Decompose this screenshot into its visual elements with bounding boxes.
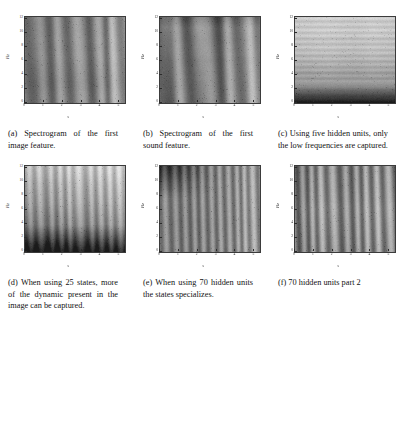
y-tick-label: 6 [156, 58, 158, 62]
x-tick-labels-b: 012345 [159, 104, 259, 112]
y-tick-labels-d: 024681012 [12, 165, 23, 251]
x-tick-label: 3 [215, 253, 217, 257]
x-tick-label: 1 [42, 104, 44, 108]
y-tick-label: 8 [291, 193, 293, 197]
y-tick-labels-b: 024681012 [147, 16, 158, 102]
y-tick-label: 6 [21, 207, 23, 211]
y-tick-label: 10 [154, 30, 158, 34]
x-tick-label: 2 [331, 104, 333, 108]
y-tick-label: 4 [21, 72, 23, 76]
x-tick-label: 4 [234, 104, 236, 108]
x-tick-label: 2 [331, 253, 333, 257]
x-tick-label: 2 [61, 253, 63, 257]
x-tick-label: 5 [252, 104, 254, 108]
y-tick-label: 6 [291, 58, 293, 62]
x-axis-label: s [8, 263, 128, 268]
spectrogram-plot-e: Hz 024681012 012345 s [143, 163, 263, 267]
x-tick-label: 1 [312, 104, 314, 108]
y-tick-label: 4 [156, 72, 158, 76]
y-tick-label: 2 [21, 235, 23, 239]
x-tick-label: 3 [80, 253, 82, 257]
spectrogram-plot-b: Hz 024681012 012345 s [143, 14, 263, 118]
y-tick-label: 12 [19, 16, 23, 20]
subfigure-caption-e: (e) When using 70 hidden units the state… [143, 277, 253, 300]
subfigure-caption-c: (c) Using five hidden units, only the lo… [278, 128, 388, 151]
x-tick-label: 2 [61, 104, 63, 108]
spectrogram-plot-f: Hz 024681012 012345 s [278, 163, 398, 267]
x-tick-label: 3 [350, 104, 352, 108]
y-tick-label: 4 [291, 221, 293, 225]
spectrogram-image-a [24, 16, 126, 104]
y-tick-label: 8 [156, 193, 158, 197]
subfigure-d: Hz 024681012 012345 s (d) When using 25 … [8, 163, 128, 312]
y-axis-label: Hz [5, 203, 10, 208]
subfigure-c: Hz 024681012 012345 s (c) Using five hid… [278, 14, 398, 151]
y-tick-label: 12 [289, 16, 293, 20]
y-tick-label: 12 [154, 165, 158, 169]
y-tick-labels-f: 024681012 [282, 165, 293, 251]
y-axis-label: Hz [140, 54, 145, 59]
x-tick-label: 2 [196, 253, 198, 257]
figure-row-top: Hz 024681012 012345 s (a) Spectrogram of… [0, 0, 404, 151]
y-tick-label: 6 [21, 58, 23, 62]
spectrogram-image-e [159, 165, 261, 253]
y-tick-label: 10 [19, 30, 23, 34]
y-axis-label: Hz [5, 54, 10, 59]
x-tick-labels-d: 012345 [24, 253, 124, 261]
y-tick-label: 10 [289, 179, 293, 183]
x-axis-label: s [8, 114, 128, 119]
y-tick-label: 10 [19, 179, 23, 183]
x-tick-label: 0 [293, 104, 295, 108]
x-tick-label: 3 [350, 253, 352, 257]
y-axis-label: Hz [275, 203, 280, 208]
subfigure-caption-d: (d) When using 25 states, more of the dy… [8, 277, 118, 312]
x-tick-label: 5 [252, 253, 254, 257]
subfigure-caption-b: (b) Spectrogram of the first sound featu… [143, 128, 253, 151]
x-tick-label: 5 [117, 253, 119, 257]
x-tick-label: 3 [80, 104, 82, 108]
spectrogram-plot-a: Hz 024681012 012345 s [8, 14, 128, 118]
y-tick-label: 6 [291, 207, 293, 211]
y-tick-label: 10 [289, 30, 293, 34]
y-tick-label: 2 [21, 86, 23, 90]
x-tick-label: 0 [23, 253, 25, 257]
x-tick-label: 0 [158, 253, 160, 257]
y-tick-label: 2 [291, 86, 293, 90]
x-tick-label: 0 [23, 104, 25, 108]
subfigure-caption-f: (f) 70 hidden units part 2 [278, 277, 388, 289]
y-tick-label: 6 [156, 207, 158, 211]
y-tick-labels-c: 024681012 [282, 16, 293, 102]
spectrogram-plot-d: Hz 024681012 012345 s [8, 163, 128, 267]
y-tick-label: 12 [19, 165, 23, 169]
figure-row-bottom: Hz 024681012 012345 s (d) When using 25 … [0, 151, 404, 312]
spectrogram-image-c [294, 16, 396, 104]
x-tick-label: 5 [387, 253, 389, 257]
y-tick-label: 8 [21, 44, 23, 48]
y-tick-labels-e: 024681012 [147, 165, 158, 251]
x-tick-label: 5 [117, 104, 119, 108]
spectrogram-plot-c: Hz 024681012 012345 s [278, 14, 398, 118]
x-tick-label: 4 [99, 253, 101, 257]
figure-page: Hz 024681012 012345 s (a) Spectrogram of… [0, 0, 404, 444]
x-tick-label: 1 [177, 104, 179, 108]
x-tick-label: 3 [215, 104, 217, 108]
y-tick-label: 8 [156, 44, 158, 48]
subfigure-caption-a: (a) Spectrogram of the first image featu… [8, 128, 118, 151]
x-tick-label: 2 [196, 104, 198, 108]
subfigure-e: Hz 024681012 012345 s (e) When using 70 … [143, 163, 263, 300]
y-tick-labels-a: 024681012 [12, 16, 23, 102]
x-tick-label: 5 [387, 104, 389, 108]
y-tick-label: 4 [291, 72, 293, 76]
spectrogram-image-b [159, 16, 261, 104]
x-axis-label: s [143, 263, 263, 268]
subfigure-f: Hz 024681012 012345 s (f) 70 hidden unit… [278, 163, 398, 289]
y-axis-label: Hz [275, 54, 280, 59]
y-axis-label: Hz [140, 203, 145, 208]
x-tick-label: 0 [293, 253, 295, 257]
y-tick-label: 12 [289, 165, 293, 169]
x-axis-label: s [278, 263, 398, 268]
x-tick-labels-a: 012345 [24, 104, 124, 112]
spectrogram-image-f [294, 165, 396, 253]
y-tick-label: 2 [156, 86, 158, 90]
x-tick-label: 4 [234, 253, 236, 257]
